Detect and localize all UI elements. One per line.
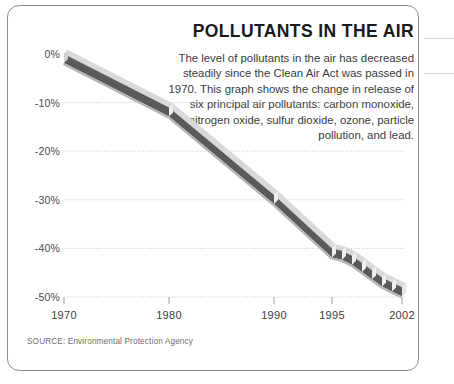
infographic-root: POLLUTANTS IN THE AIR The level of pollu… [0, 0, 454, 384]
chart-plot-area: 0%-10%-20%-30%-40%-50% 19701980199019952… [8, 6, 420, 372]
ribbon-segment [273, 204, 332, 259]
y-axis-tick-label: -40% [8, 242, 60, 254]
xticks-group [64, 297, 402, 304]
x-axis-tick-label: 1970 [51, 309, 77, 321]
page-rule-top [424, 38, 454, 39]
y-axis-tick-label: -50% [8, 291, 60, 303]
x-axis-tick-label: 1995 [319, 309, 345, 321]
chart-card: POLLUTANTS IN THE AIR The level of pollu… [7, 5, 419, 371]
x-axis-tick-label: 1980 [156, 309, 182, 321]
source-note: SOURCE: Environmental Protection Agency [27, 337, 193, 346]
x-axis-tick-label: 2002 [389, 309, 415, 321]
ribbon-segment [64, 54, 169, 116]
y-axis-tick-label: -20% [8, 145, 60, 157]
y-axis-tick-label: 0% [8, 48, 60, 60]
x-axis-tick-label: 1990 [261, 309, 287, 321]
ribbon-segment [169, 107, 274, 203]
ribbon-segment [274, 195, 332, 257]
ribbon-segment [168, 116, 274, 205]
ribbon-segment [169, 103, 278, 194]
ribbon-segment [64, 50, 173, 107]
data-ribbon [63, 50, 406, 298]
y-axis-tick-label: -30% [8, 194, 60, 206]
y-axis-tick-label: -10% [8, 97, 60, 109]
page-rule-bottom [424, 73, 454, 74]
ribbon-segment [63, 63, 169, 118]
